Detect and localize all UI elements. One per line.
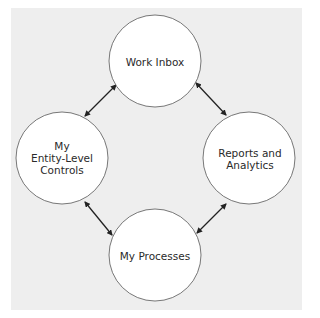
label-line: Controls (31, 164, 93, 176)
label-text: Work Inbox (126, 56, 185, 68)
arrow-reports-to-processes (197, 204, 226, 233)
label-my-entity-level-controls: My Entity-Level Controls (31, 140, 93, 176)
label-reports-and-analytics: Reports and Analytics (218, 147, 281, 171)
arrow-work-inbox-to-reports (196, 83, 226, 115)
label-line: My (31, 140, 93, 152)
label-line: Analytics (218, 159, 281, 171)
label-line: Entity-Level (31, 152, 93, 164)
label-line: Reports and (218, 147, 281, 159)
label-my-processes: My Processes (120, 250, 190, 262)
label-work-inbox: Work Inbox (126, 56, 185, 68)
label-text: My Processes (120, 250, 190, 262)
arrow-work-inbox-to-controls (85, 85, 116, 116)
arrow-controls-to-processes (85, 202, 112, 235)
